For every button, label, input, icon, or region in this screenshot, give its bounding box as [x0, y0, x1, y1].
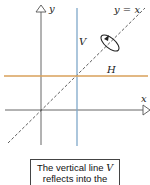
x-axis-label: x: [141, 93, 147, 104]
caption-box: The vertical line V reflects into the ho…: [30, 159, 120, 185]
caption-line-2: reflects into the: [31, 173, 119, 184]
caption-line-3: horizontal line H: [31, 184, 119, 185]
y-axis-arrow-icon: [36, 5, 46, 12]
y-axis: [36, 5, 46, 145]
reflection-diagram: y x y = x V H: [0, 0, 150, 150]
vertical-line-label: V: [79, 36, 88, 47]
caption-line-1: The vertical line V: [31, 162, 119, 173]
y-axis-label: y: [48, 3, 55, 14]
x-axis-arrow-icon: [143, 105, 150, 115]
horizontal-line-label: H: [106, 64, 116, 75]
diagonal-label: y = x: [113, 4, 140, 15]
